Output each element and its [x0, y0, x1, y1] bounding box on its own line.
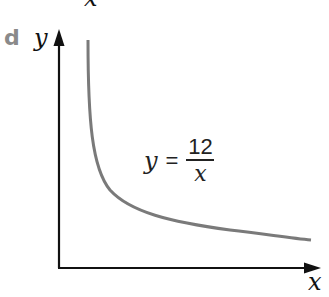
y-axis	[54, 29, 65, 268]
y-axis-arrow-icon	[54, 29, 65, 46]
equation-label: y = 12 x	[144, 136, 214, 185]
x-axis-arrow-icon	[304, 263, 321, 274]
equation-lhs: y	[144, 147, 158, 175]
equation-numerator: 12	[188, 136, 212, 158]
equation-denominator: x	[194, 163, 206, 185]
equation-equals: =	[166, 148, 179, 174]
x-axis	[58, 263, 321, 274]
equation-fraction: 12 x	[186, 136, 214, 185]
